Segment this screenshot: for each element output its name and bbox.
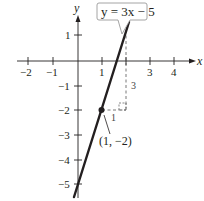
rise-label: 3 [131, 80, 136, 91]
y-axis-label: y [73, 1, 80, 15]
x-tick-label-neg1: −1 [46, 66, 58, 78]
y-tick-label-1: 1 [65, 29, 71, 41]
x-tick-label-4: 4 [171, 66, 177, 78]
point-label-leader [104, 115, 110, 134]
y-tick-label-neg3: −3 [58, 129, 70, 141]
y-tick-label-neg5: −5 [58, 178, 70, 190]
point-label: (1, −2) [99, 134, 132, 148]
run-label: 1 [111, 112, 116, 123]
right-angle-marker [119, 103, 126, 110]
y-tick-label-neg1: −1 [58, 80, 70, 92]
x-tick-label-3: 3 [147, 66, 153, 78]
equation-label: y = 3x − 5 [101, 4, 155, 19]
x-axis-label: x [196, 54, 203, 68]
y-tick-label-neg4: −4 [58, 154, 70, 166]
point-1-neg2 [99, 107, 105, 113]
y-tick-label-neg2: −2 [58, 104, 70, 116]
x-tick-label-1: 1 [99, 66, 105, 78]
graph-figure: x y −2 −1 1 3 4 1 −1 −2 −3 −4 −5 1 3 [0, 0, 204, 201]
y-axis [76, 15, 81, 198]
x-axis [17, 59, 196, 64]
x-tick-label-neg2: −2 [20, 66, 32, 78]
